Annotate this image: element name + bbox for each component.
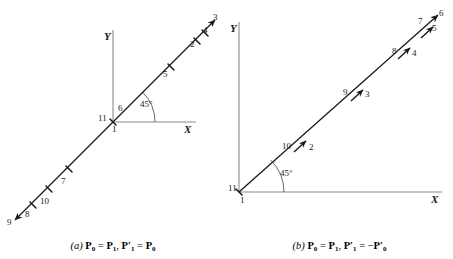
caption-comma: , [116,240,119,251]
caption-lhs-sub: 0 [314,245,318,253]
y-axis-label: Y [230,23,237,34]
point-label: 9 [343,88,348,97]
point-label: 2 [309,143,314,152]
point-label: 10 [282,142,291,151]
point-label: 2 [190,40,195,49]
caption-eq2: = [137,240,143,251]
marker-5 [168,64,174,70]
caption-eq2: = [359,240,365,251]
caption-comma: , [338,240,341,251]
marker-8 [30,202,36,208]
point-label: 5 [163,70,168,79]
panel-b-caption: (b) P0 = P1, P′1 = −P′0 [226,241,453,252]
marker-2 [194,38,200,44]
main-line [239,15,438,192]
point-label: 8 [392,47,397,56]
point-label: 6 [118,104,123,113]
point-label: 4 [412,49,417,58]
caption-tag: (a) [70,240,82,251]
point-label: 1 [112,125,117,134]
point-label: 4 [203,26,208,35]
point-label: 11 [98,114,107,123]
caption-tag: (b) [293,240,305,251]
panel-a: Y X 45° 3 4 2 5 6 11 1 7 10 8 9 (a) P0 =… [0,0,226,259]
y-axis-label: Y [104,31,111,42]
caption-lhs-symbol: P [307,240,313,251]
point-markers [30,30,208,208]
caption-rhs-sub: 1 [353,245,357,253]
caption-lhs-sub: 0 [92,245,96,253]
panel-a-caption: (a) P0 = P1, P′1 = P0 [0,241,226,252]
point-label: 7 [61,177,66,186]
main-line-lower [15,122,113,220]
caption-rhs-sub: 1 [131,245,135,253]
caption-mid-symbol: P [106,240,112,251]
point-label: 1 [240,196,245,205]
marker-10 [46,186,52,192]
marker-2-arrow [294,141,306,152]
panel-b: Y X 45° 6 7 5 8 4 9 3 10 2 11 1 (b) P0 =… [226,0,453,259]
point-label: 5 [432,24,437,33]
caption-lhs-symbol: P [85,240,91,251]
marker-7 [66,166,72,172]
point-markers [236,27,433,195]
point-label: 6 [439,9,444,18]
caption-eq1: = [320,240,326,251]
caption-tail-sub: 0 [152,245,156,253]
x-axis-label: X [184,124,191,135]
caption-mid-symbol: P [328,240,334,251]
caption-eq1: = [98,240,104,251]
point-label: 3 [213,13,218,22]
angle-label: 45° [280,169,293,178]
point-label: 3 [365,90,370,99]
caption-tail-sub: 0 [383,245,387,253]
point-label: 8 [25,210,30,219]
panel-b-graphic [226,0,453,259]
figure-container: Y X 45° 3 4 2 5 6 11 1 7 10 8 9 (a) P0 =… [0,0,453,259]
caption-mid-sub: 1 [113,245,117,253]
point-label: 11 [228,184,237,193]
point-label: 9 [7,218,12,227]
x-axis-label: X [431,194,438,205]
point-label: 10 [40,197,49,206]
caption-mid-sub: 1 [335,245,339,253]
angle-label: 45° [140,100,153,109]
point-label: 7 [418,17,423,26]
